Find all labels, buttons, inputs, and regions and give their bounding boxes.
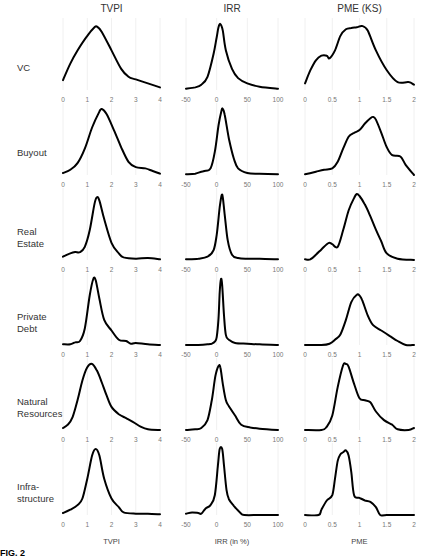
svg-text:0.5: 0.5 <box>328 436 337 443</box>
svg-text:0: 0 <box>303 521 307 528</box>
svg-text:1.5: 1.5 <box>382 266 391 273</box>
x-axis-label-irr: IRR (in %) <box>186 537 278 546</box>
svg-text:4: 4 <box>158 436 162 443</box>
svg-text:1: 1 <box>358 96 362 103</box>
svg-text:4: 4 <box>158 96 162 103</box>
svg-text:1: 1 <box>358 351 362 358</box>
svg-text:0: 0 <box>303 436 307 443</box>
svg-text:2: 2 <box>110 436 114 443</box>
svg-text:1.5: 1.5 <box>382 181 391 188</box>
svg-text:1: 1 <box>358 521 362 528</box>
svg-text:100: 100 <box>273 96 284 103</box>
svg-text:1: 1 <box>85 351 89 358</box>
svg-text:1.5: 1.5 <box>382 96 391 103</box>
density-panel-infrastructure-pme: 00.511.52 <box>303 443 416 528</box>
svg-text:2: 2 <box>110 521 114 528</box>
svg-text:50: 50 <box>244 521 252 528</box>
svg-text:-50: -50 <box>181 181 191 188</box>
density-panel-infrastructure-irr: -50050100 <box>181 443 284 528</box>
svg-text:2: 2 <box>110 351 114 358</box>
svg-text:1: 1 <box>85 96 89 103</box>
svg-text:-50: -50 <box>181 266 191 273</box>
svg-text:0.5: 0.5 <box>328 96 337 103</box>
svg-text:0.5: 0.5 <box>328 521 337 528</box>
svg-text:0: 0 <box>61 436 65 443</box>
svg-text:100: 100 <box>273 351 284 358</box>
density-panel-buyout-pme: 00.511.52 <box>303 103 416 188</box>
svg-text:1.5: 1.5 <box>382 521 391 528</box>
density-panel-real-estate-tvpi: 01234 <box>61 188 162 273</box>
svg-text:2: 2 <box>110 181 114 188</box>
svg-text:50: 50 <box>244 96 252 103</box>
svg-text:1: 1 <box>358 266 362 273</box>
density-panel-natural-resources-pme: 00.511.52 <box>303 358 416 443</box>
svg-text:1: 1 <box>85 266 89 273</box>
svg-text:3: 3 <box>134 351 138 358</box>
svg-text:0: 0 <box>303 351 307 358</box>
svg-text:2: 2 <box>412 351 416 358</box>
svg-text:0: 0 <box>215 351 219 358</box>
svg-text:-50: -50 <box>181 96 191 103</box>
svg-text:1.5: 1.5 <box>382 436 391 443</box>
svg-text:2: 2 <box>110 96 114 103</box>
svg-text:1: 1 <box>358 181 362 188</box>
svg-text:2: 2 <box>412 96 416 103</box>
density-panel-vc-irr: -50050100 <box>181 18 284 103</box>
svg-text:0: 0 <box>61 181 65 188</box>
density-panel-private-debt-pme: 00.511.52 <box>303 273 416 358</box>
density-panel-vc-pme: 00.511.52 <box>303 18 416 103</box>
density-panel-real-estate-pme: 00.511.52 <box>303 188 416 273</box>
svg-text:-50: -50 <box>181 436 191 443</box>
svg-text:100: 100 <box>273 181 284 188</box>
svg-text:2: 2 <box>412 521 416 528</box>
svg-text:50: 50 <box>244 181 252 188</box>
svg-text:-50: -50 <box>181 351 191 358</box>
x-axis-label-pme: PME <box>305 537 414 546</box>
density-panel-natural-resources-irr: -50050100 <box>181 358 284 443</box>
density-panel-buyout-irr: -50050100 <box>181 103 284 188</box>
svg-text:1.5: 1.5 <box>382 351 391 358</box>
svg-text:100: 100 <box>273 436 284 443</box>
svg-text:0: 0 <box>61 96 65 103</box>
svg-text:4: 4 <box>158 351 162 358</box>
svg-text:0.5: 0.5 <box>328 181 337 188</box>
svg-text:3: 3 <box>134 96 138 103</box>
svg-text:0: 0 <box>303 181 307 188</box>
svg-text:4: 4 <box>158 521 162 528</box>
svg-text:4: 4 <box>158 181 162 188</box>
svg-text:3: 3 <box>134 266 138 273</box>
svg-text:50: 50 <box>244 266 252 273</box>
svg-text:100: 100 <box>273 521 284 528</box>
density-panel-infrastructure-tvpi: 01234 <box>61 443 162 528</box>
svg-text:-50: -50 <box>181 521 191 528</box>
svg-text:100: 100 <box>273 266 284 273</box>
density-panel-vc-tvpi: 01234 <box>61 18 162 103</box>
svg-text:0: 0 <box>61 266 65 273</box>
svg-text:0: 0 <box>215 181 219 188</box>
svg-text:0: 0 <box>215 96 219 103</box>
svg-text:2: 2 <box>412 266 416 273</box>
svg-text:2: 2 <box>412 436 416 443</box>
svg-text:0.5: 0.5 <box>328 266 337 273</box>
svg-text:1: 1 <box>358 436 362 443</box>
svg-text:0: 0 <box>61 351 65 358</box>
figure-label: FIG. 2 <box>0 548 25 558</box>
svg-text:0: 0 <box>303 96 307 103</box>
svg-text:0: 0 <box>215 521 219 528</box>
svg-text:0: 0 <box>303 266 307 273</box>
svg-text:2: 2 <box>412 181 416 188</box>
svg-text:50: 50 <box>244 351 252 358</box>
svg-text:1: 1 <box>85 521 89 528</box>
density-panel-buyout-tvpi: 01234 <box>61 103 162 188</box>
density-panel-natural-resources-tvpi: 01234 <box>61 358 162 443</box>
density-panel-real-estate-irr: -50050100 <box>181 188 284 273</box>
svg-text:0: 0 <box>215 436 219 443</box>
svg-text:3: 3 <box>134 181 138 188</box>
svg-text:3: 3 <box>134 521 138 528</box>
svg-text:1: 1 <box>85 181 89 188</box>
svg-text:3: 3 <box>134 436 138 443</box>
svg-text:1: 1 <box>85 436 89 443</box>
x-axis-label-tvpi: TVPI <box>63 537 160 546</box>
density-panel-private-debt-tvpi: 01234 <box>61 273 162 358</box>
